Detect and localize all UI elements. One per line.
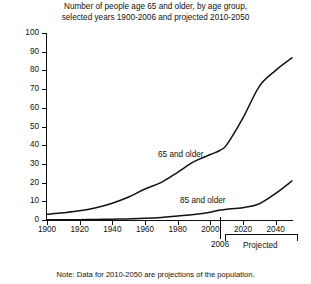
y-tick [42, 33, 47, 34]
series-line-85-and-older [47, 181, 292, 220]
series-label-85-and-older: 85 and older [180, 196, 226, 205]
y-tick-label: 80 [0, 66, 39, 74]
y-tick-label: 50 [0, 123, 39, 131]
chart-title: Number of people age 65 and older, by ag… [0, 2, 311, 23]
y-tick [42, 164, 47, 165]
chart-title-line-1: Number of people age 65 and older, by ag… [0, 2, 311, 13]
series-line-65-and-older [47, 58, 292, 214]
y-tick-label: 60 [0, 104, 39, 112]
chart-note: Note: Data for 2010-2050 are projections… [0, 270, 311, 279]
projected-bracket [225, 234, 298, 241]
chart-container: Number of people age 65 and older, by ag… [0, 0, 311, 284]
y-tick [42, 70, 47, 71]
y-tick [42, 201, 47, 202]
y-tick [42, 145, 47, 146]
x-axis-line [46, 220, 293, 221]
y-tick-label: 100 [0, 29, 39, 37]
chart-title-line-2: selected years 1900-2006 and projected 2… [0, 13, 311, 24]
x-tick-label: 2040 [256, 226, 296, 234]
y-tick [42, 108, 47, 109]
y-tick-label: 0 [0, 216, 39, 224]
y-tick [42, 127, 47, 128]
y-tick-label: 70 [0, 85, 39, 93]
y-tick [42, 52, 47, 53]
projected-label: Projected [225, 241, 296, 250]
series-label-65-and-older: 65 and older [158, 150, 204, 159]
y-tick [42, 183, 47, 184]
y-tick-label: 30 [0, 160, 39, 168]
y-tick-label: 40 [0, 141, 39, 149]
y-tick-label: 10 [0, 197, 39, 205]
y-tick [42, 89, 47, 90]
y-tick-label: 90 [0, 48, 39, 56]
y-tick-label: 20 [0, 179, 39, 187]
divider-line-2006 [220, 217, 221, 239]
